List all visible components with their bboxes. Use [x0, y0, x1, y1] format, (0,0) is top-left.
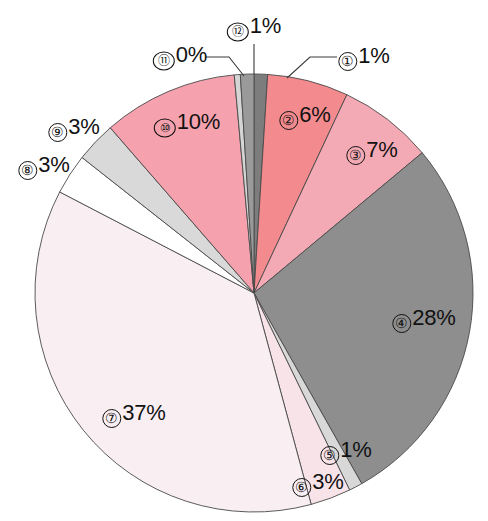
- pie-chart: ①1% ②6% ③7% ④28% ⑤1% ⑥3% ⑦37% ⑧3% ⑨3% ⑩1…: [0, 0, 488, 521]
- pie-slices: [35, 74, 473, 512]
- pie-chart-graphic: [0, 0, 488, 521]
- leader-line-11: [205, 57, 244, 76]
- leader-line-1: [287, 57, 337, 78]
- leader-lines: [205, 44, 337, 78]
